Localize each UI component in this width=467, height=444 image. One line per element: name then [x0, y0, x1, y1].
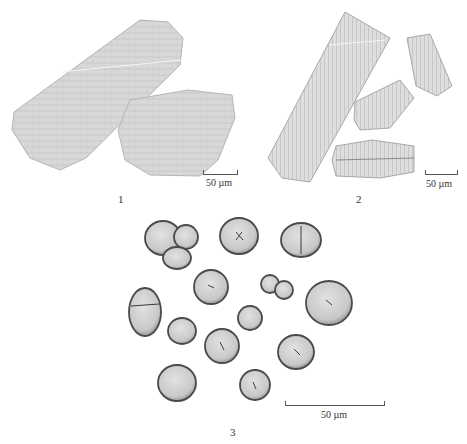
- panel-1-label: 1: [118, 193, 124, 205]
- panel-2-scale-bar: [425, 170, 458, 175]
- panel-2-scale-label: 50 µm: [426, 178, 452, 189]
- panel-1-scale-label: 50 µm: [206, 177, 232, 188]
- panel-3-label: 3: [230, 426, 236, 438]
- panel-3-scale-label: 50 µm: [321, 409, 347, 420]
- panel-3-grains: [129, 218, 352, 401]
- figure: 50 µm 1 50 µm 2 50 µm 3: [0, 0, 467, 444]
- panel-1-scale-bar: [203, 170, 238, 175]
- panel-2-specimens: [268, 12, 452, 182]
- panel-2-label: 2: [356, 193, 362, 205]
- micrographs: [0, 0, 467, 444]
- panel-1-specimens: [12, 20, 235, 176]
- panel-3-scale-bar: [285, 401, 385, 406]
